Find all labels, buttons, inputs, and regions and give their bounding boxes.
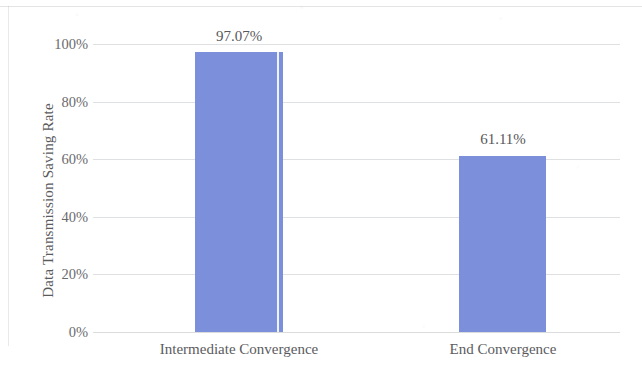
gridline-baseline-0 — [93, 332, 620, 333]
gridline-80 — [93, 102, 620, 103]
y-tick-label-100: 100% — [32, 36, 88, 53]
bar-intermediate-convergence[interactable] — [195, 52, 283, 332]
y-axis-tick-labels: 100% 80% 60% 40% 20% 0% — [32, 0, 88, 371]
plot-area — [93, 44, 620, 332]
bar-chart: Data Transmission Saving Rate 100% 80% 6… — [0, 0, 642, 371]
y-tick-label-20: 20% — [32, 266, 88, 283]
data-label-intermediate-convergence: 97.07% — [216, 28, 262, 45]
gridline-100 — [93, 44, 620, 45]
x-category-label-intermediate-convergence: Intermediate Convergence — [160, 341, 318, 358]
bar-end-convergence[interactable] — [459, 156, 546, 332]
y-tick-label-80: 80% — [32, 93, 88, 110]
data-label-end-convergence: 61.11% — [480, 131, 526, 148]
scan-edge-artifact-top — [0, 6, 642, 7]
y-tick-label-0: 0% — [32, 324, 88, 341]
bar-white-artifact-line — [277, 52, 279, 332]
x-category-label-end-convergence: End Convergence — [450, 341, 557, 358]
y-tick-label-60: 60% — [32, 151, 88, 168]
y-tick-label-40: 40% — [32, 208, 88, 225]
scan-edge-artifact-left — [8, 6, 9, 346]
